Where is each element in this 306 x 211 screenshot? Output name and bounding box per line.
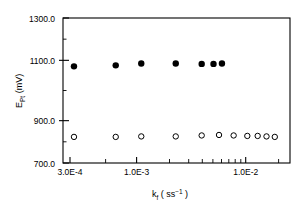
data-point [245,133,250,138]
data-point [264,134,269,139]
y-tick-label-900: 900.0 [34,116,56,126]
data-point [255,133,260,138]
y-tick-label-1300: 1300.0 [29,14,55,24]
plot-frame [63,18,290,163]
x-axis-minor-ticks [106,18,279,163]
data-point [139,134,144,139]
data-point [113,62,119,68]
svg-text:kf ( ss−1 ): kf ( ss−1 ) [152,188,188,201]
x-tick-labels: 3.0E-4 1.0E-3 1.0E-2 [57,167,258,177]
x-axis-title-open: ( s [158,189,171,199]
x-axis-major-ticks [70,157,246,163]
data-point [231,133,236,138]
series-filled-circles [71,60,225,69]
data-point [173,60,179,66]
figure-container: 1300.0 1100.0 900.0 700.0 3.0E-4 1.0E-3 … [0,0,306,211]
data-point [219,60,225,66]
data-point [138,60,144,66]
data-point [173,134,178,139]
x-tick-label-1e-3: 1.0E-3 [124,167,149,177]
x-tick-label-3e-4: 3.0E-4 [57,167,82,177]
y-tick-label-700: 700.0 [34,159,56,169]
y-axis-title: EPt (mV) [14,74,26,108]
data-point [71,63,77,69]
data-point [198,61,204,67]
y-tick-labels: 1300.0 1100.0 900.0 700.0 [29,14,55,169]
data-point [71,134,76,139]
series-open-circles [71,132,277,139]
x-axis-title: kf ( ss−1 ) [152,188,188,201]
axes-box [63,18,290,163]
data-point [113,134,118,139]
data-point [216,132,221,137]
data-point [210,61,216,67]
x-axis-title-close: ) [183,189,189,199]
y-axis-major-ticks-outer [59,60,63,120]
y-tick-label-1100: 1100.0 [30,56,56,66]
data-point [199,133,204,138]
y-axis-title-unit: (mV) [14,74,24,96]
scatter-plot: 1300.0 1100.0 900.0 700.0 3.0E-4 1.0E-3 … [0,0,306,211]
svg-text:EPt (mV): EPt (mV) [14,74,26,108]
data-point [272,134,277,139]
x-tick-label-1e-2: 1.0E-2 [233,167,258,177]
